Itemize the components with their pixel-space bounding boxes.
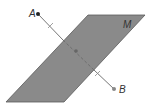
point-b-label: B [119,84,126,95]
segment-ab-upper [38,14,63,40]
point-a-label: A [28,8,36,19]
segment-ab-lower [94,70,114,89]
plane-m-label: M [123,19,132,30]
diagram-canvas: A B M [0,0,152,105]
point-a-dot [36,12,40,16]
point-b-dot [112,87,116,91]
midpoint-dot [74,49,78,53]
